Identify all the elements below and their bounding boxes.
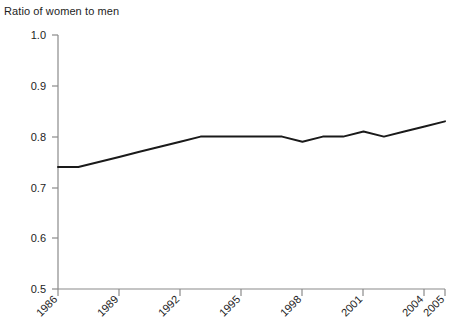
y-tick-label: 0.7 xyxy=(31,182,46,194)
x-tick-label: 1995 xyxy=(217,293,243,319)
y-tick-label: 0.5 xyxy=(31,283,46,295)
y-tick-group xyxy=(52,35,58,289)
x-tick-label: 2001 xyxy=(339,293,365,319)
data-line-ratio-women-to-men xyxy=(58,121,445,167)
x-tick-label: 2004 xyxy=(400,293,426,319)
x-tick-label: 1998 xyxy=(278,293,304,319)
x-tick-label: 2005 xyxy=(421,293,447,319)
y-tick-label: 0.8 xyxy=(31,131,46,143)
y-tick-label: 1.0 xyxy=(31,29,46,41)
y-tick-label-group: 1.0 0.9 0.8 0.7 0.6 0.5 xyxy=(31,29,46,295)
y-tick-label: 0.9 xyxy=(31,80,46,92)
chart-container: Ratio of women to men 1.0 0.9 0.8 0.7 0.… xyxy=(0,0,467,329)
x-tick-label-group: 1986 1989 1992 1995 1998 2001 2004 2005 xyxy=(34,293,447,319)
y-tick-label: 0.6 xyxy=(31,232,46,244)
line-chart-plot: 1.0 0.9 0.8 0.7 0.6 0.5 1986 1989 1992 1… xyxy=(0,0,467,329)
x-tick-label: 1986 xyxy=(34,293,60,319)
x-tick-label: 1992 xyxy=(156,293,182,319)
x-tick-label: 1989 xyxy=(95,293,121,319)
x-tick-group xyxy=(58,289,445,296)
